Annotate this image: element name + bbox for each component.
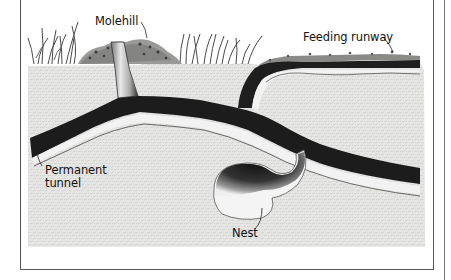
feeding-runway-label: Feeding runway	[303, 31, 393, 44]
soil-cross-section	[28, 62, 425, 246]
grass-tufts-middle	[180, 34, 262, 64]
nest-label: Nest	[232, 227, 258, 240]
permanent-tunnel-label-line2: tunnel	[45, 177, 107, 190]
molehill-leader-line	[141, 22, 147, 38]
molehill-mound	[78, 39, 182, 64]
permanent-tunnel-label: Permanent tunnel	[45, 164, 107, 190]
grass-tufts-left	[28, 22, 78, 64]
molehill-label: Molehill	[95, 15, 138, 28]
